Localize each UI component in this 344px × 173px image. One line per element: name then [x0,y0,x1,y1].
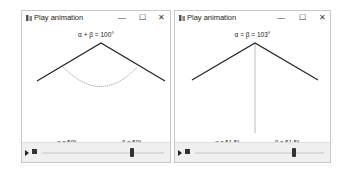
close-button[interactable]: ✕ [155,12,167,24]
play-icon[interactable] [25,150,29,156]
timeline-slider[interactable] [195,152,324,154]
minimize-button[interactable]: — [116,12,128,24]
app-icon [26,15,32,21]
stop-icon[interactable] [185,149,190,154]
stop-icon[interactable] [32,149,37,154]
maximize-button[interactable]: ☐ [136,12,148,24]
angle-diagram [22,26,172,144]
play-icon[interactable] [178,150,182,156]
minimize-button[interactable]: — [275,12,287,24]
animation-window-2: Play animation — ☐ ✕ α = β = 103° α = 51… [174,10,331,163]
playback-controls [22,142,170,162]
playback-controls [175,142,330,162]
timeline-slider[interactable] [42,152,164,154]
window-title: Play animation [34,13,83,22]
maximize-button[interactable]: ☐ [296,12,308,24]
slider-thumb[interactable] [130,148,134,157]
angle-diagram [175,26,332,144]
title-bar[interactable]: Play animation — ☐ ✕ [175,11,330,26]
animation-window-1: Play animation — ☐ ✕ α + β = 100° α = 50… [21,10,171,163]
slider-thumb[interactable] [292,148,296,157]
animation-canvas: α + β = 100° α = 50° β = 50° [22,26,170,144]
app-icon [179,15,185,21]
close-button[interactable]: ✕ [316,12,328,24]
window-title: Play animation [187,13,236,22]
title-bar[interactable]: Play animation — ☐ ✕ [22,11,170,26]
animation-canvas: α = β = 103° α = 51.5° β = 51.5° [175,26,330,144]
